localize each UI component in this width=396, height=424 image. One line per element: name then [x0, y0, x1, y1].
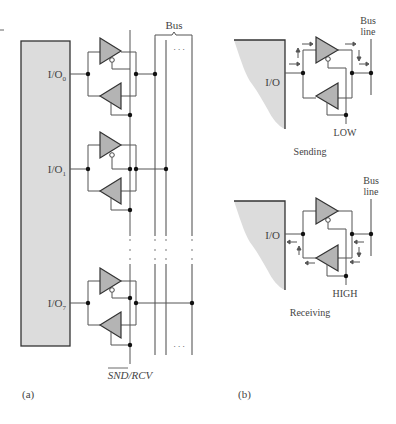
sending-caption: Sending — [294, 146, 327, 157]
bus-label: Bus — [165, 19, 182, 31]
low-label: LOW — [334, 127, 357, 138]
inverting-bubble-icon — [110, 153, 115, 158]
receiving-io-label: I/O — [265, 229, 280, 241]
sending-line-label: line — [361, 26, 377, 37]
inverting-bubble-icon — [326, 218, 331, 223]
sending-io-label: I/O — [265, 76, 280, 88]
device-edge — [234, 201, 285, 290]
inverting-bubble-icon — [110, 58, 115, 63]
sending-diagram: I/O Bus line — [234, 15, 376, 157]
bus-gap — [125, 236, 200, 264]
panel-b: I/O Bus line — [234, 15, 379, 401]
high-label: HIGH — [333, 288, 358, 299]
panel-a: Bus . . . . . . SND/RCV I/O0 — [21, 19, 200, 401]
inverting-bubble-icon — [326, 57, 331, 62]
inverting-bubble-icon — [110, 288, 115, 293]
panel-a-caption: (a) — [22, 388, 35, 401]
receiving-line-label: line — [364, 186, 380, 197]
sending-bus-label: Bus — [360, 15, 376, 26]
receiving-bus-label: Bus — [363, 175, 379, 186]
bus-ellipsis-bottom: . . . — [173, 339, 184, 349]
bus-transceiver-diagram: Bus . . . . . . SND/RCV I/O0 — [0, 0, 396, 424]
snd-rcv-label: SND/RCV — [108, 369, 154, 381]
bus-ellipsis-top: . . . — [173, 42, 184, 52]
bus-bracket — [155, 32, 192, 38]
device-block — [21, 41, 70, 346]
panel-b-caption: (b) — [238, 388, 251, 401]
receiving-caption: Receiving — [290, 307, 331, 318]
receiving-diagram: I/O Bus line — [234, 175, 379, 318]
